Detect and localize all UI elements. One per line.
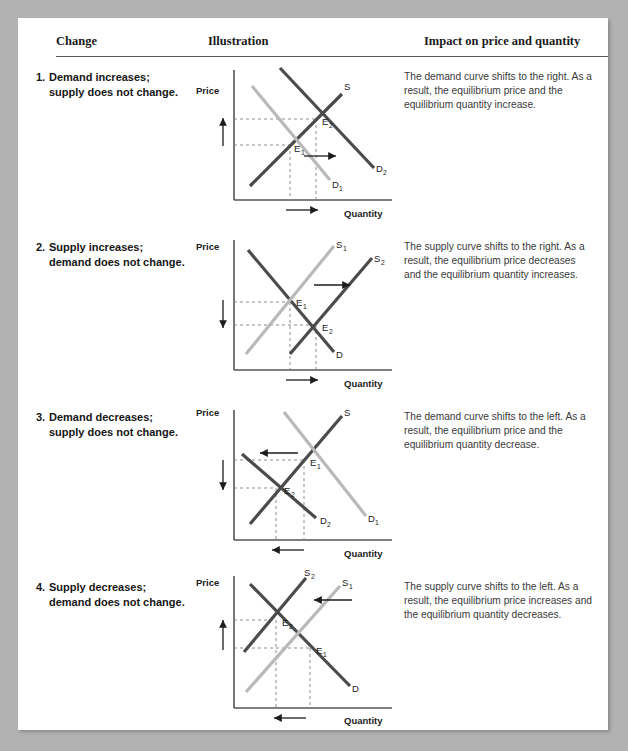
- supply-new-sub: 2: [311, 573, 315, 580]
- supply-demand-chart-4: Price Quantity S 2 S 1 D E 2 E: [194, 556, 404, 726]
- demand-new-label: D: [320, 515, 327, 526]
- demand-curve-new: [242, 454, 316, 518]
- chart-panel-3: Price Quantity S D 1 D 2 E 1 E: [194, 402, 404, 572]
- supply-initial-sub: 1: [343, 245, 347, 252]
- equilibrium-new-sub: 2: [329, 328, 333, 335]
- equilibrium-initial-sub: 1: [301, 149, 305, 156]
- header-divider: [56, 56, 608, 57]
- row-impact-text: The supply curve shifts to the left. As …: [404, 580, 594, 622]
- row-change-text: 4. Supply decreases; demand does not cha…: [36, 580, 186, 609]
- demand-curve-initial: [252, 86, 330, 180]
- row-change-label: Demand increases; supply does not change…: [49, 70, 186, 99]
- supply-demand-chart-1: Price Quantity S D 1 D 2 E 1 E: [194, 62, 404, 232]
- equilibrium-initial-label: E: [310, 457, 316, 468]
- chart-panel-2: Price Quantity S 1 S 2 D E 1 E: [194, 232, 404, 402]
- demand-initial-label: D: [332, 179, 339, 190]
- demand-curve-label: D: [352, 683, 359, 694]
- equilibrium-initial-sub: 1: [303, 303, 307, 310]
- row-change-text: 2. Supply increases; demand does not cha…: [36, 240, 186, 269]
- x-axis-label: Quantity: [344, 208, 383, 219]
- chart-panel-4: Price Quantity S 2 S 1 D E 2 E: [194, 556, 404, 726]
- row-change-text: 1. Demand increases; supply does not cha…: [36, 70, 186, 99]
- row-impact-text: The demand curve shifts to the right. As…: [404, 70, 594, 112]
- row-change-label: Supply increases; demand does not change…: [49, 240, 186, 269]
- y-axis-label: Price: [196, 241, 219, 252]
- column-header-illustration: Illustration: [208, 34, 268, 49]
- table-row: 3. Demand decreases; supply does not cha…: [18, 402, 608, 572]
- equilibrium-new-label: E: [322, 116, 328, 127]
- y-axis-label: Price: [196, 407, 219, 418]
- y-axis-label: Price: [196, 85, 219, 96]
- supply-demand-chart-2: Price Quantity S 1 S 2 D E 1 E: [194, 232, 404, 402]
- supply-initial-label: S: [336, 239, 342, 250]
- row-number: 2.: [36, 241, 45, 253]
- column-header-change: Change: [56, 34, 97, 49]
- row-change-text: 3. Demand decreases; supply does not cha…: [36, 410, 186, 439]
- row-impact-text: The supply curve shifts to the right. As…: [404, 240, 594, 282]
- equilibrium-initial-sub: 1: [323, 651, 327, 658]
- chart-panel-1: Price Quantity S D 1 D 2 E 1 E: [194, 62, 404, 232]
- row-change-label: Demand decreases; supply does not change…: [49, 410, 186, 439]
- table-row: 2. Supply increases; demand does not cha…: [18, 232, 608, 402]
- equilibrium-initial-label: E: [294, 143, 300, 154]
- equilibrium-new-sub: 2: [291, 491, 295, 498]
- supply-initial-sub: 1: [349, 583, 353, 590]
- supply-curve-initial: [246, 586, 340, 692]
- x-axis-label: Quantity: [344, 378, 383, 389]
- supply-curve-label: S: [344, 407, 350, 418]
- figure-card: Change Illustration Impact on price and …: [18, 18, 608, 730]
- equilibrium-initial-label: E: [296, 297, 302, 308]
- demand-initial-sub: 1: [375, 519, 379, 526]
- y-axis-label: Price: [196, 577, 219, 588]
- demand-curve-label: D: [336, 349, 343, 360]
- row-number: 4.: [36, 581, 45, 593]
- supply-curve-label: S: [344, 81, 350, 92]
- demand-initial-sub: 1: [339, 185, 343, 192]
- demand-initial-label: D: [368, 513, 375, 524]
- x-axis-label: Quantity: [344, 715, 383, 726]
- demand-new-sub: 2: [383, 169, 387, 176]
- equilibrium-new-label: E: [284, 485, 290, 496]
- table-header: Change Illustration Impact on price and …: [38, 34, 590, 56]
- equilibrium-initial-label: E: [316, 645, 322, 656]
- equilibrium-new-sub: 2: [329, 122, 333, 129]
- equilibrium-new-label: E: [322, 322, 328, 333]
- column-header-impact: Impact on price and quantity: [424, 34, 580, 49]
- supply-new-label: S: [374, 253, 380, 264]
- row-number: 3.: [36, 411, 45, 423]
- supply-demand-chart-3: Price Quantity S D 1 D 2 E 1 E: [194, 402, 404, 572]
- equilibrium-new-label: E: [282, 617, 288, 628]
- supply-new-label: S: [304, 567, 310, 578]
- demand-new-sub: 2: [327, 521, 331, 528]
- equilibrium-new-sub: 2: [289, 623, 293, 630]
- demand-new-label: D: [376, 163, 383, 174]
- table-row: 1. Demand increases; supply does not cha…: [18, 62, 608, 232]
- row-impact-text: The demand curve shifts to the left. As …: [404, 410, 594, 452]
- equilibrium-initial-sub: 1: [317, 463, 321, 470]
- supply-initial-label: S: [342, 577, 348, 588]
- supply-new-sub: 2: [381, 259, 385, 266]
- row-change-label: Supply decreases; demand does not change…: [49, 580, 186, 609]
- row-number: 1.: [36, 71, 45, 83]
- table-row: 4. Supply decreases; demand does not cha…: [18, 556, 608, 726]
